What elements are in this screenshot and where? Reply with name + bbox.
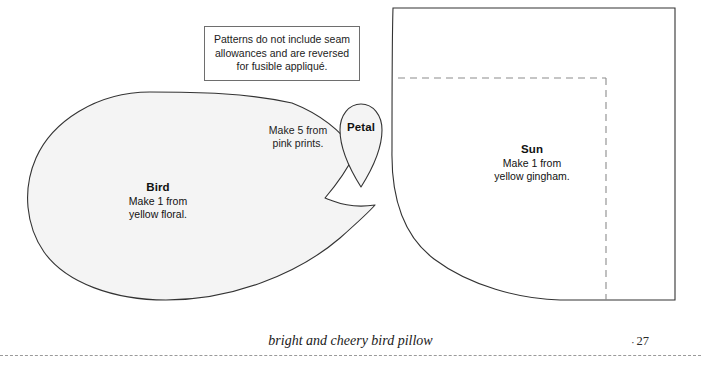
petal-piece-instructions: Make 5 from pink prints. (258, 124, 338, 150)
sun-outline (392, 8, 675, 300)
petal-shape (340, 104, 382, 187)
pattern-page: Patterns do not include seam allowances … (0, 0, 701, 370)
seam-allowance-note-text: Patterns do not include seam allowances … (208, 33, 356, 74)
page-number: ·27 (600, 334, 680, 349)
page-trim-dashed-line (0, 355, 701, 356)
page-number-value: 27 (637, 334, 650, 348)
project-title: bright and cheery bird pillow (0, 333, 701, 349)
seam-allowance-note: Patterns do not include seam allowances … (204, 26, 360, 81)
